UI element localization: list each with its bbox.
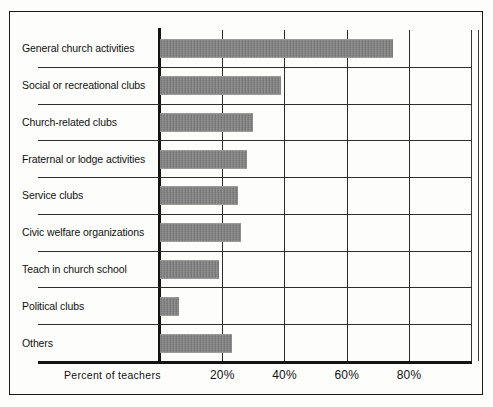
category-label: Fraternal or lodge activities [22, 153, 154, 165]
row-separator [38, 287, 472, 288]
bar [160, 76, 281, 95]
bar [160, 334, 232, 353]
chart-row: Fraternal or lodge activities [0, 140, 493, 177]
chart-row: Others [0, 324, 493, 361]
bar [160, 260, 219, 279]
chart-row: Teach in church school [0, 251, 493, 288]
chart-row: Service clubs [0, 177, 493, 214]
chart-row: Civic welfare organizations [0, 214, 493, 251]
x-axis-label: Percent of teachers [64, 369, 161, 381]
category-label: Service clubs [22, 189, 154, 201]
chart-row: Political clubs [0, 287, 493, 324]
row-separator [38, 324, 472, 325]
plot-area: General church activitiesSocial or recre… [0, 0, 493, 407]
bar [160, 223, 241, 242]
chart-row: General church activities [0, 30, 493, 67]
category-label: Others [22, 337, 154, 349]
bar [160, 113, 253, 132]
row-separator [38, 104, 472, 105]
category-label: Teach in church school [22, 263, 154, 275]
x-tick-label: 80% [397, 368, 422, 382]
baseline-axis [38, 361, 472, 364]
category-label: Political clubs [22, 300, 154, 312]
x-tick-label: 40% [272, 368, 297, 382]
bar [160, 150, 247, 169]
chart-row: Church-related clubs [0, 104, 493, 141]
chart-row: Social or recreational clubs [0, 67, 493, 104]
x-tick-label: 60% [334, 368, 359, 382]
row-separator [38, 214, 472, 215]
category-label: General church activities [22, 42, 154, 54]
row-separator [38, 140, 472, 141]
category-label: Civic welfare organizations [22, 226, 154, 238]
row-separator [38, 251, 472, 252]
row-separator [38, 67, 472, 68]
x-tick-label: 20% [210, 368, 235, 382]
chart-figure: General church activitiesSocial or recre… [0, 0, 493, 407]
bar [160, 186, 238, 205]
row-separator [38, 177, 472, 178]
bar [160, 39, 393, 58]
bar [160, 297, 179, 316]
category-label: Social or recreational clubs [22, 79, 154, 91]
category-label: Church-related clubs [22, 116, 154, 128]
